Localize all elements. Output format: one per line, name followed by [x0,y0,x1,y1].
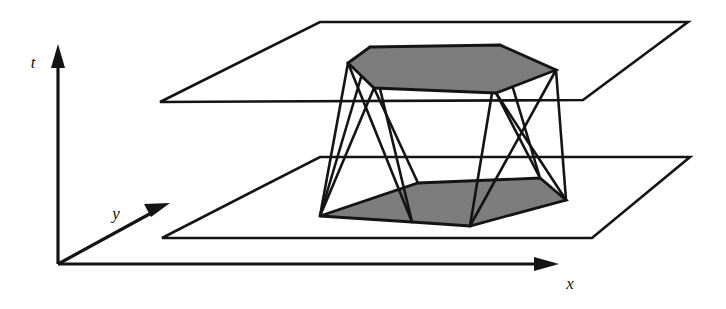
x-axis-label: x [565,274,574,293]
t-axis-arrowhead [51,44,65,68]
edge-d5 [320,88,374,216]
t-axis-label: t [31,53,37,72]
x-axis-arrowhead [534,257,559,271]
solid-top-face [348,45,556,93]
edge-v4 [556,70,566,200]
solid-bottom-face [320,178,566,226]
y-axis-label: y [110,204,120,223]
edge-v6 [374,88,418,183]
y-axis-line [58,211,155,264]
figure-canvas: t y x [0,0,726,309]
geometry-diagram: t y x [0,0,726,309]
